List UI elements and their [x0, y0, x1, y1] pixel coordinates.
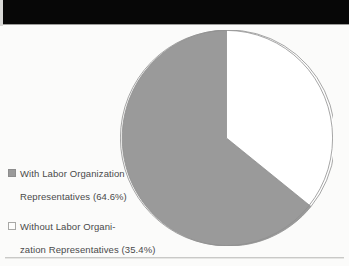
- legend-swatch-hollow-icon: [8, 222, 16, 230]
- header-bar-underline: [3, 24, 349, 25]
- legend-label-line2: Representatives (64.6%): [20, 191, 127, 202]
- legend-line: Without Labor Organi-: [8, 213, 158, 236]
- legend-label-line1: Without Labor Organi-: [20, 221, 116, 232]
- legend-line: Representatives (64.6%): [8, 183, 158, 206]
- legend-label-line2: zation Representatives (35.4%): [20, 244, 156, 255]
- legend-swatch-filled-icon: [8, 169, 16, 177]
- header-black-bar: [3, 0, 349, 24]
- legend-line: zation Representatives (35.4%): [8, 236, 158, 259]
- legend-item-without-labor-org: Without Labor Organi- zation Representat…: [8, 213, 158, 259]
- legend-label-line1: With Labor Organization: [20, 168, 125, 179]
- figure-page: With Labor Organization Representatives …: [0, 0, 349, 266]
- bottom-divider-shadow: [5, 258, 344, 259]
- legend-line: With Labor Organization: [8, 160, 158, 183]
- chart-legend: With Labor Organization Representatives …: [8, 160, 158, 266]
- legend-item-with-labor-org: With Labor Organization Representatives …: [8, 160, 158, 206]
